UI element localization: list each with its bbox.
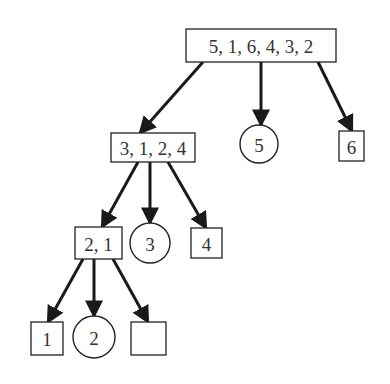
node-label: 3	[145, 234, 155, 255]
node-p3: 3	[130, 223, 170, 263]
node-p2: 2	[73, 316, 115, 358]
arrow-l2a-to-r4	[168, 162, 206, 228]
nodes: 5, 1, 6, 4, 3, 23, 1, 2, 4562, 13412	[31, 29, 364, 358]
arrow-l2a-to-l3a	[102, 162, 138, 227]
node-label: 6	[347, 137, 357, 158]
node-r4: 4	[191, 228, 222, 258]
node-l3a: 2, 1	[75, 227, 122, 259]
arrow-l3a-to-l1	[48, 259, 83, 322]
edges	[48, 62, 352, 322]
node-label: 2	[89, 328, 99, 349]
node-label: 4	[202, 234, 212, 255]
node-label: 2, 1	[84, 234, 113, 255]
node-label: 5	[254, 135, 264, 156]
partition-tree-diagram: 5, 1, 6, 4, 3, 23, 1, 2, 4562, 13412	[0, 0, 390, 384]
arrow-root-to-r6	[318, 62, 352, 131]
arrow-root-to-l2a	[140, 62, 203, 133]
node-l1: 1	[31, 322, 63, 355]
node-r6: 6	[339, 131, 364, 161]
node-label: 1	[42, 329, 52, 350]
sublist-box	[131, 322, 166, 355]
node-l2a: 3, 1, 2, 4	[111, 133, 195, 162]
node-label: 5, 1, 6, 4, 3, 2	[209, 36, 314, 57]
node-label: 3, 1, 2, 4	[120, 138, 187, 159]
node-root: 5, 1, 6, 4, 3, 2	[186, 29, 336, 62]
node-empty	[131, 322, 166, 355]
node-p5: 5	[240, 125, 278, 163]
arrow-l3a-to-empty	[113, 259, 148, 322]
